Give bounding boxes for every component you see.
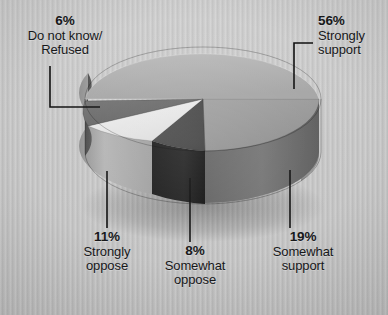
slice-name-strongly-oppose-line2: oppose [57,259,157,273]
slice-name-do-not-know-refused-line1: Do not know/ [4,29,126,43]
slice-name-somewhat-support-line1: Somewhat [248,245,358,259]
slice-percent-strongly-support: 56% [318,14,386,29]
slice-top-strongly-support [85,54,319,99]
slice-label-strongly-support: 56% Strongly support [318,14,386,57]
slice-name-somewhat-support-line2: support [248,259,358,273]
slice-percent-do-not-know-refused: 6% [4,14,126,29]
slice-name-do-not-know-refused-line2: Refused [4,43,126,57]
slice-label-strongly-oppose: 11% Strongly oppose [57,230,157,273]
slice-name-somewhat-oppose-line2: oppose [143,273,247,287]
slice-name-somewhat-oppose-line1: Somewhat [143,259,247,273]
slice-label-do-not-know-refused: 6% Do not know/ Refused [4,14,126,57]
slice-percent-strongly-oppose: 11% [57,230,157,245]
pie-chart-figure: 6% Do not know/ Refused 56% Strongly sup… [0,0,388,315]
slice-label-somewhat-support: 19% Somewhat support [248,230,358,273]
slice-percent-somewhat-support: 19% [248,230,358,245]
slice-percent-somewhat-oppose: 8% [143,244,247,259]
slice-name-strongly-oppose-line1: Strongly [57,245,157,259]
slice-name-strongly-support-line2: support [318,43,386,57]
slice-label-somewhat-oppose: 8% Somewhat oppose [143,244,247,287]
slice-name-strongly-support-line1: Strongly [318,29,386,43]
